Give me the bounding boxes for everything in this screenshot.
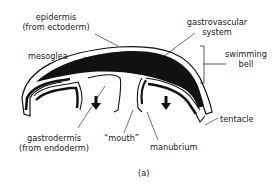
down-arrow-right-icon (161, 96, 171, 110)
label-swimming-bell-line1: swimming (216, 49, 276, 59)
label-epidermis-line1: epidermis (16, 12, 96, 22)
label-mouth: “mouth” (104, 133, 139, 143)
leader-mouth (124, 110, 133, 133)
label-swimming-bell: swimming bell (216, 49, 276, 69)
label-mesoglea: mesoglea (28, 51, 68, 61)
label-swimming-bell-line2: bell (216, 59, 276, 69)
manubrium-left (88, 75, 121, 112)
tentacle-tip (196, 114, 205, 122)
label-gastrovascular-system: gastrovascular system (178, 17, 256, 37)
leader-epidermis (95, 34, 118, 46)
label-epidermis-line2: (from ectoderm) (16, 22, 96, 32)
label-gastrodermis-line2: (from endoderm) (14, 143, 94, 153)
label-gastrovascular-line2: system (178, 27, 256, 37)
down-arrow-left-icon (91, 96, 101, 110)
label-epidermis: epidermis (from ectoderm) (16, 12, 96, 32)
label-gastrovascular-line1: gastrovascular (178, 17, 256, 27)
label-tentacle: tentacle (220, 114, 253, 124)
leader-gastrodermis (78, 86, 105, 128)
label-gastrodermis-line1: gastrodermis (14, 133, 94, 143)
left-canal-inner (36, 88, 78, 108)
label-gastrodermis: gastrodermis (from endoderm) (14, 133, 94, 153)
leader-manubrium (147, 112, 158, 140)
leader-tentacle (205, 118, 218, 125)
manubrium-right-inner (142, 80, 146, 104)
figure-caption: (a) (138, 168, 149, 178)
label-manubrium: manubrium (150, 142, 197, 152)
